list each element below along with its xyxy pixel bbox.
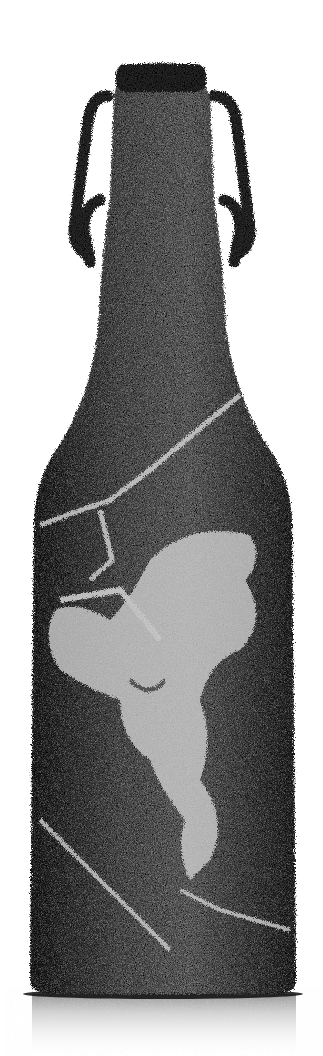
fur-texture [0, 0, 323, 1000]
bottle-cap [116, 64, 206, 92]
bottle-artwork [0, 0, 323, 1056]
bottle-reflection [23, 989, 303, 1056]
